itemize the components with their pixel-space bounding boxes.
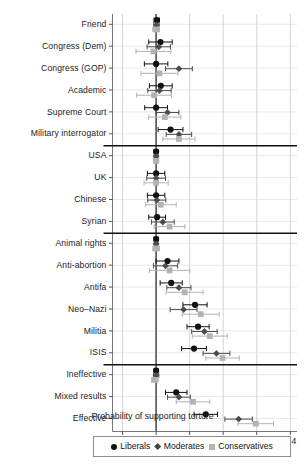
legend-label-conservatives: Conservatives (218, 442, 272, 451)
data-point-group (137, 92, 172, 98)
data-point-group (187, 324, 209, 330)
circle-marker-icon (158, 83, 164, 89)
circle-marker-icon (191, 346, 197, 352)
y-axis-label: Neo–Nazi (68, 305, 107, 314)
square-marker-icon (153, 246, 159, 252)
data-point-group (163, 136, 195, 142)
data-point-group (153, 27, 160, 33)
data-point-group (206, 355, 240, 361)
data-point-group (182, 311, 219, 317)
data-point-group (154, 224, 185, 230)
diamond-marker-icon (201, 328, 208, 335)
data-point-group (144, 180, 168, 186)
diamond-marker-icon (180, 306, 187, 313)
data-point-group (141, 70, 178, 76)
y-axis-label: Supreme Court (47, 108, 107, 117)
square-marker-icon (153, 180, 159, 186)
data-point-group (192, 333, 227, 339)
data-point-group (153, 158, 159, 164)
circle-marker-icon (168, 280, 174, 286)
legend: Liberals Moderates Conservatives (93, 436, 291, 457)
circle-marker-icon (154, 214, 160, 220)
square-marker-icon (153, 27, 159, 33)
square-marker-icon (152, 377, 158, 383)
square-marker-icon (153, 158, 159, 164)
y-axis-label: Congress (GOP) (41, 64, 106, 73)
data-point-group (145, 105, 168, 111)
square-marker-icon (162, 114, 168, 120)
y-axis-label: Anti-abortion (56, 261, 106, 270)
square-marker-icon (182, 289, 188, 295)
data-point-group (166, 389, 187, 395)
y-axis-label: Militia (84, 327, 107, 336)
data-point-group (238, 421, 274, 427)
data-point-group (149, 114, 181, 120)
data-point-group (203, 350, 230, 357)
data-point-group (182, 346, 207, 352)
diamond-marker-icon (154, 443, 162, 451)
y-axis-label: UK (94, 173, 106, 182)
square-marker-icon (151, 49, 157, 55)
circle-marker-icon (192, 302, 198, 308)
square-marker-icon (176, 136, 182, 142)
square-marker-icon (157, 70, 163, 76)
y-axis-label: Antifa (84, 283, 107, 292)
diamond-marker-icon (213, 350, 220, 357)
square-marker-icon (190, 399, 196, 405)
circle-marker-icon (167, 127, 173, 133)
y-axis-label: Syrian (82, 217, 107, 226)
legend-label-moderates: Moderates (164, 442, 205, 451)
circle-marker-icon (153, 61, 159, 67)
data-point-group (136, 49, 171, 55)
circle-marker-icon (153, 105, 159, 111)
data-point-group (192, 328, 217, 335)
square-marker-icon (158, 202, 164, 208)
diamond-marker-icon (176, 284, 183, 291)
circle-marker-icon (111, 444, 117, 450)
chart-figure: FriendCongress (Dem)Congress (GOP)Academ… (0, 0, 305, 472)
legend-item-moderates: Moderates (155, 442, 204, 451)
data-point-group (183, 302, 207, 308)
y-axis-label: Congress (Dem) (42, 42, 106, 51)
y-axis-label: ISIS (90, 348, 107, 357)
y-axis-label: Academic (68, 86, 107, 95)
y-axis-label: Friend (82, 20, 107, 29)
data-point-group (144, 61, 167, 67)
diamond-marker-icon (176, 65, 183, 72)
data-point-group (170, 306, 197, 313)
data-point-group (153, 262, 177, 269)
data-point-group (149, 39, 172, 45)
data-point-group (153, 246, 160, 252)
square-marker-icon (207, 333, 213, 339)
data-point-group (151, 377, 158, 383)
square-marker-icon (253, 421, 259, 427)
square-marker-icon (167, 268, 173, 274)
circle-marker-icon (195, 324, 201, 330)
x-axis-title: Probability of supporting torture (0, 412, 305, 421)
y-axis-label: Military interrogator (31, 129, 107, 138)
square-marker-icon (198, 311, 204, 317)
data-point-group (166, 65, 193, 72)
square-marker-icon (209, 444, 215, 450)
y-axis-label: Ineffective (66, 370, 106, 379)
y-axis-label: Chinese (74, 195, 106, 204)
data-point-group (145, 202, 176, 208)
square-marker-icon (167, 224, 173, 230)
y-axis-label: Animal rights (56, 239, 107, 248)
data-point-group (149, 83, 172, 89)
square-marker-icon (151, 92, 157, 98)
data-point-group (176, 399, 210, 405)
legend-item-liberals: Liberals (111, 442, 150, 451)
data-point-group (166, 289, 203, 295)
y-axis-label: Mixed results (55, 392, 107, 401)
square-marker-icon (220, 355, 226, 361)
data-point-group (156, 258, 179, 264)
legend-item-conservatives: Conservatives (209, 442, 272, 451)
y-axis-label: USA (89, 151, 107, 160)
legend-label-liberals: Liberals (120, 442, 150, 451)
